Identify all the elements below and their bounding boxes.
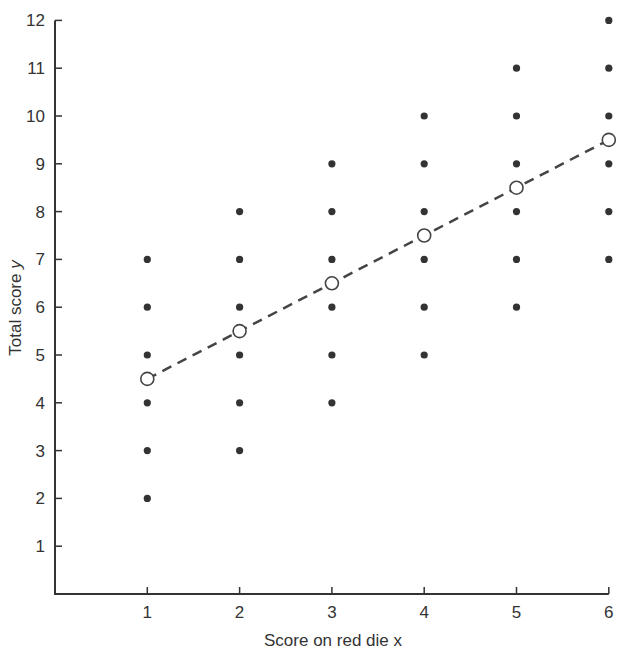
y-tick-label: 2: [36, 489, 45, 508]
data-point: [236, 304, 243, 311]
y-tick-label: 3: [36, 442, 45, 461]
y-tick-label: 9: [36, 155, 45, 174]
data-point: [236, 351, 243, 358]
data-point: [144, 495, 151, 502]
data-point: [513, 256, 520, 263]
y-tick-label: 1: [36, 537, 45, 556]
data-point: [328, 160, 335, 167]
data-point: [421, 256, 428, 263]
y-tick-label: 5: [36, 346, 45, 365]
x-tick-label: 2: [235, 603, 244, 622]
data-point: [144, 256, 151, 263]
data-point: [236, 447, 243, 454]
y-tick-label: 4: [36, 394, 45, 413]
data-point: [421, 351, 428, 358]
data-point: [513, 208, 520, 215]
mean-point: [510, 181, 523, 194]
y-axis-ticks: 123456789101112: [26, 11, 62, 556]
data-point: [513, 304, 520, 311]
data-point: [328, 256, 335, 263]
data-point: [236, 256, 243, 263]
data-point: [421, 112, 428, 119]
data-point: [328, 208, 335, 215]
data-point: [421, 160, 428, 167]
mean-point: [233, 325, 246, 338]
data-point: [236, 399, 243, 406]
data-point: [144, 399, 151, 406]
data-point: [605, 208, 612, 215]
y-tick-label: 11: [27, 59, 45, 78]
data-point: [513, 65, 520, 72]
y-tick-label: 6: [36, 298, 45, 317]
mean-point: [325, 277, 338, 290]
scatter-chart: 123456 123456789101112 Score on red die …: [0, 0, 621, 658]
data-point: [605, 112, 612, 119]
mean-point: [141, 372, 154, 385]
x-axis-title: Score on red die x: [264, 631, 402, 650]
data-point: [328, 304, 335, 311]
data-point: [513, 112, 520, 119]
data-point: [236, 208, 243, 215]
mean-trend-line: [147, 140, 609, 379]
x-tick-label: 3: [327, 603, 336, 622]
dashed-line: [147, 140, 609, 379]
y-axis-title-var: y: [6, 259, 25, 270]
y-tick-label: 10: [26, 107, 45, 126]
data-point: [605, 160, 612, 167]
x-axis-ticks: 123456: [143, 587, 614, 622]
data-point: [144, 447, 151, 454]
data-point: [421, 208, 428, 215]
data-point: [144, 351, 151, 358]
y-tick-label: 8: [36, 203, 45, 222]
data-point: [605, 65, 612, 72]
y-axis-title: Total score y: [6, 259, 25, 356]
x-tick-label: 6: [604, 603, 613, 622]
data-point: [605, 256, 612, 263]
data-point: [605, 17, 612, 24]
data-point: [328, 399, 335, 406]
mean-point: [418, 229, 431, 242]
mean-point: [602, 133, 615, 146]
x-tick-label: 4: [419, 603, 428, 622]
data-point: [513, 160, 520, 167]
x-tick-label: 1: [143, 603, 152, 622]
y-axis-title-text: Total score: [6, 269, 25, 356]
data-point: [328, 351, 335, 358]
y-tick-label: 7: [36, 250, 45, 269]
data-point: [144, 304, 151, 311]
x-tick-label: 5: [512, 603, 521, 622]
data-point: [421, 304, 428, 311]
y-tick-label: 12: [26, 11, 45, 30]
